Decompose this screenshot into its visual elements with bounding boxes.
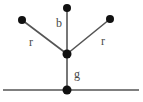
edge-label-g: g [74,67,80,81]
top-node [63,4,71,12]
bottom-node [63,86,72,95]
upper-right-node [106,15,114,23]
edge-label-r-left: r [29,35,33,49]
graph-diagram: b r r g [0,0,143,102]
upper-left-node [18,16,26,24]
center-junction-node [63,50,72,59]
edge-label-r-right: r [101,34,105,48]
edge-label-b: b [56,16,62,30]
diagram-canvas: b r r g [0,0,143,102]
